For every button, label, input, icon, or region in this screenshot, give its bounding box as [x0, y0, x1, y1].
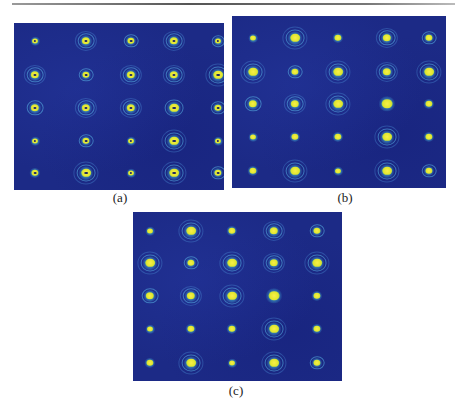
- panel-a: [14, 23, 224, 190]
- panel-label-b: (b): [337, 190, 352, 206]
- panel-label-c: (c): [229, 383, 243, 399]
- page-top-rule: [12, 3, 455, 5]
- panel-c: [133, 212, 342, 381]
- panel-label-a: (a): [113, 190, 127, 206]
- panel-b: [232, 16, 446, 188]
